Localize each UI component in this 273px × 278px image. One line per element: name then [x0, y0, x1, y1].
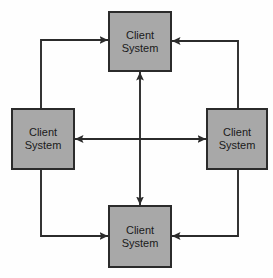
node-label-line2: System: [122, 237, 159, 250]
node-label-line1: Client: [126, 29, 154, 42]
node-client-system-left: Client System: [11, 108, 75, 170]
node-label-line2: System: [219, 139, 256, 152]
node-client-system-right: Client System: [206, 108, 268, 170]
node-label-line1: Client: [223, 126, 251, 139]
node-label-line2: System: [122, 42, 159, 55]
node-client-system-top: Client System: [108, 11, 172, 72]
diagram-canvas: Client System Client System Client Syste…: [0, 0, 273, 278]
node-label-line1: Client: [126, 224, 154, 237]
node-client-system-bottom: Client System: [108, 205, 172, 268]
node-label-line2: System: [25, 139, 62, 152]
node-label-line1: Client: [29, 126, 57, 139]
